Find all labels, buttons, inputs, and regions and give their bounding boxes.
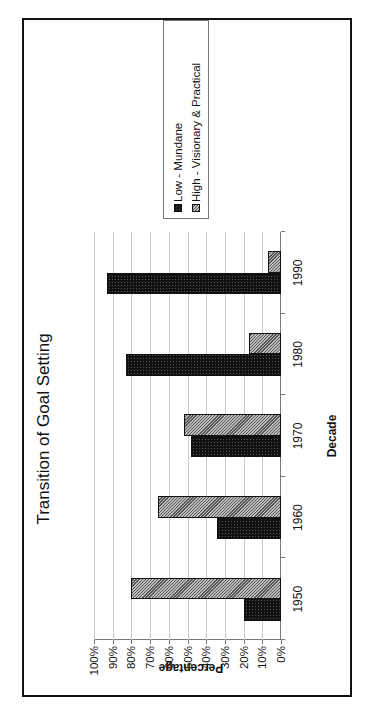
- legend-label-high: High - Visionary & Practical: [190, 63, 202, 202]
- y-tick-label: 80%: [125, 646, 137, 669]
- x-tick: [281, 394, 285, 395]
- y-tick: [244, 640, 245, 644]
- legend-swatch-low: [174, 204, 182, 212]
- legend-swatch-high: [192, 204, 200, 212]
- y-tick: [94, 640, 95, 644]
- y-tick-label: 100%: [88, 646, 100, 675]
- legend: Low - Mundane High - Visionary & Practic…: [163, 20, 209, 219]
- y-tick: [169, 640, 170, 644]
- legend-item-low: Low - Mundane: [169, 21, 187, 212]
- y-tick-label: 10%: [256, 646, 268, 669]
- y-tick-label: 60%: [163, 646, 175, 669]
- chart-frame: Transition of Goal Setting Percentage 0%…: [22, 18, 352, 697]
- bar-low-1970: [191, 436, 281, 458]
- y-tick: [150, 640, 151, 644]
- y-tick: [225, 640, 226, 644]
- y-tick-label: 40%: [200, 646, 212, 669]
- x-tick: [281, 557, 285, 558]
- bar-high-1980: [249, 333, 281, 355]
- x-tick: [281, 639, 285, 640]
- y-tick: [281, 640, 282, 644]
- y-tick-label: 0%: [275, 646, 287, 663]
- y-tick-label: 50%: [182, 646, 194, 669]
- x-axis-title: Decade: [325, 232, 339, 640]
- y-tick-label: 70%: [144, 646, 156, 669]
- bar-low-1950: [244, 599, 281, 621]
- y-tick-label: 30%: [219, 646, 231, 669]
- x-tick-label: 1990: [291, 259, 305, 286]
- legend-label-low: Low - Mundane: [172, 123, 184, 202]
- bar-low-1960: [217, 518, 281, 540]
- x-tick: [281, 313, 285, 314]
- x-tick: [281, 476, 285, 477]
- x-tick: [281, 231, 285, 232]
- y-tick: [262, 640, 263, 644]
- plot-area: 0%10%20%30%40%50%60%70%80%90%100%1950196…: [94, 232, 281, 640]
- bar-low-1990: [107, 273, 281, 295]
- bar-high-1960: [158, 496, 281, 518]
- bar-high-1950: [131, 578, 281, 600]
- bar-high-1970: [184, 415, 281, 437]
- y-tick: [131, 640, 132, 644]
- x-tick-label: 1960: [291, 504, 305, 531]
- chart-title: Transition of Goal Setting: [34, 219, 54, 639]
- x-tick-label: 1980: [291, 341, 305, 368]
- x-tick-label: 1950: [291, 586, 305, 613]
- x-tick-label: 1970: [291, 423, 305, 450]
- y-tick: [206, 640, 207, 644]
- y-tick: [113, 640, 114, 644]
- legend-item-high: High - Visionary & Practical: [187, 21, 205, 212]
- bar-high-1990: [268, 251, 281, 273]
- bar-low-1980: [126, 354, 281, 376]
- gridline: [94, 232, 95, 640]
- y-tick-label: 90%: [107, 646, 119, 669]
- y-tick: [188, 640, 189, 644]
- y-tick-label: 20%: [238, 646, 250, 669]
